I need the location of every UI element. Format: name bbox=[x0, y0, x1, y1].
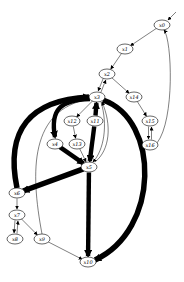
node-x3: x3 bbox=[89, 92, 105, 102]
edge-x16-x0 bbox=[157, 30, 170, 143]
node-x6: x6 bbox=[9, 188, 25, 198]
node-label: x14 bbox=[129, 94, 138, 100]
edge-x5-x10 bbox=[88, 172, 89, 256]
node-x15: x15 bbox=[142, 116, 158, 126]
edge-entry-x0 bbox=[168, 12, 176, 20]
edge-x2-x3 bbox=[98, 78, 103, 90]
node-label: x2 bbox=[104, 71, 110, 77]
node-x2: x2 bbox=[99, 69, 115, 79]
edge-x9-x10 bbox=[47, 241, 82, 259]
graph-canvas: x0x1x2x3x14x12x11x15x4x13x16x5x6x7x8x9x1… bbox=[0, 0, 184, 282]
edge-x14-x15 bbox=[137, 102, 146, 116]
node-label: x3 bbox=[94, 94, 100, 100]
node-x9: x9 bbox=[34, 234, 50, 244]
node-label: x1 bbox=[122, 46, 128, 52]
node-label: x8 bbox=[12, 236, 18, 242]
edge-x0-x1 bbox=[130, 28, 157, 46]
node-x10: x10 bbox=[80, 257, 96, 267]
node-x1: x1 bbox=[117, 44, 133, 54]
edge-x2-x14 bbox=[112, 78, 129, 94]
node-label: x0 bbox=[159, 22, 166, 28]
edge-x1-x2 bbox=[111, 53, 122, 69]
node-label: x9 bbox=[39, 236, 46, 242]
node-label: x12 bbox=[67, 118, 76, 124]
edge-x3-x2 bbox=[101, 80, 106, 92]
node-x0: x0 bbox=[154, 20, 170, 30]
node-label: x10 bbox=[83, 259, 93, 265]
edge-x3-x12 bbox=[77, 101, 93, 117]
node-label: x7 bbox=[14, 212, 21, 218]
node-label: x4 bbox=[52, 141, 58, 147]
edge-x7-x8 bbox=[14, 220, 15, 233]
edge-x3-x10 bbox=[95, 100, 145, 260]
edge-x8-x7 bbox=[17, 221, 18, 234]
node-x16: x16 bbox=[142, 140, 158, 150]
node-label: x5 bbox=[86, 164, 92, 170]
node-x12: x12 bbox=[64, 116, 80, 126]
node-x11: x11 bbox=[87, 116, 103, 126]
edge-x11-x5 bbox=[90, 126, 94, 161]
edges-layer bbox=[14, 12, 176, 260]
edge-x5-x6 bbox=[23, 169, 83, 191]
node-x8: x8 bbox=[7, 234, 23, 244]
edge-x12-x13 bbox=[73, 126, 75, 138]
node-label: x11 bbox=[90, 118, 99, 124]
node-label: x15 bbox=[145, 118, 154, 124]
node-x14: x14 bbox=[126, 92, 142, 102]
node-x13: x13 bbox=[69, 139, 85, 149]
node-x4: x4 bbox=[47, 139, 63, 149]
node-label: x6 bbox=[14, 190, 21, 196]
edge-x11-x3 bbox=[95, 103, 96, 116]
node-x7: x7 bbox=[9, 210, 25, 220]
edge-x7-x9 bbox=[21, 219, 37, 235]
node-label: x16 bbox=[145, 142, 155, 148]
node-label: x13 bbox=[72, 141, 81, 147]
node-x5: x5 bbox=[81, 162, 97, 172]
